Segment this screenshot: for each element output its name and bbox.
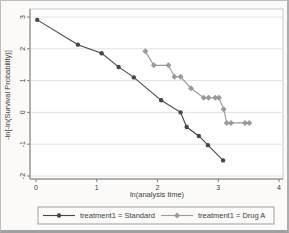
data-point-circle — [184, 125, 188, 129]
legend-label: treatment1 = Drug A — [198, 211, 265, 220]
data-point-circle — [178, 110, 182, 114]
y-tick-label: 1 — [19, 79, 26, 83]
legend: treatment1 = Standardtreatment1 = Drug A — [38, 207, 274, 224]
x-axis-title: ln(analysis time) — [130, 190, 185, 199]
data-point-circle — [116, 65, 120, 69]
plot-background — [30, 9, 283, 179]
data-point-circle — [132, 75, 136, 79]
data-point-circle — [99, 51, 103, 55]
x-tick-label: 4 — [277, 184, 281, 191]
legend-marker-circle — [57, 213, 61, 217]
legend-label: treatment1 = Standard — [80, 211, 155, 220]
y-tick-label: -2 — [19, 173, 26, 179]
y-tick-label: -1 — [19, 141, 26, 147]
x-tick-label: 3 — [216, 184, 220, 191]
data-point-circle — [35, 18, 39, 22]
y-axis-title: -ln[-ln(Survival Probability)] — [3, 50, 12, 140]
stata-loglog-survival-figure: 3210-1-201234 ln(analysis time) -ln[-ln(… — [0, 0, 289, 233]
data-point-circle — [159, 98, 163, 102]
chart-canvas: 3210-1-201234 ln(analysis time) -ln[-ln(… — [1, 1, 289, 233]
y-tick-label: 0 — [19, 110, 26, 114]
x-tick-label: 1 — [95, 184, 99, 191]
x-tick-label: 0 — [34, 184, 38, 191]
data-point-circle — [76, 42, 80, 46]
data-point-circle — [206, 143, 210, 147]
data-point-circle — [197, 134, 201, 138]
data-point-circle — [221, 158, 225, 162]
y-tick-label: 2 — [19, 47, 26, 51]
y-tick-label: 3 — [19, 15, 26, 19]
plot-area — [30, 9, 283, 179]
